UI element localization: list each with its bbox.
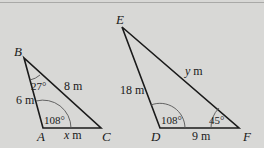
side-label-de: 18 m [120,83,145,97]
vertex-label-b: B [14,44,22,59]
angle-label-a: 108° [44,114,65,126]
side-label-bc: 8 m [64,79,83,93]
vertex-label-e: E [115,12,124,27]
similar-triangles-diagram: B A C 27° 108° 6 m 8 m x m E D F 108° 45… [0,0,264,148]
vertex-label-d: D [150,129,161,144]
angle-label-f: 45° [209,114,224,126]
vertex-label-f: F [242,129,252,144]
side-label-ef: y m [184,64,203,78]
side-label-df: 9 m [192,129,211,143]
vertex-label-a: A [36,129,45,144]
side-label-ab: 6 m [16,93,35,107]
side-label-ac: x m [63,128,82,142]
triangle-def [122,27,239,128]
diagram-svg: B A C 27° 108° 6 m 8 m x m E D F 108° 45… [0,0,264,148]
angle-label-d: 108° [161,114,182,126]
vertex-label-c: C [102,129,111,144]
angle-label-b: 27° [31,80,46,92]
